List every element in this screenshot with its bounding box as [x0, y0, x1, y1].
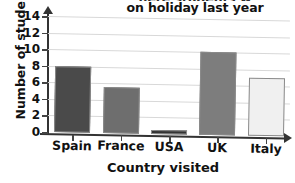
x-axis-label-spain: Spain: [44, 137, 100, 153]
chart-title: here students w on holiday last year: [95, 0, 295, 14]
plot-area: [48, 16, 290, 132]
bar-chart-figure: here students w on holiday last year 024…: [0, 0, 295, 183]
y-axis-tick: [42, 115, 48, 117]
y-axis-tick: [42, 49, 48, 51]
y-axis-tick-label: 0: [20, 126, 40, 138]
y-axis-title: Number of students: [13, 0, 28, 120]
chart-title-line: on holiday last year: [95, 1, 295, 14]
x-axis-label-italy: Italy: [238, 141, 294, 157]
y-axis-tick: [42, 33, 48, 35]
y-axis-tick: [42, 82, 48, 84]
bar-spain: [54, 66, 91, 133]
y-axis-tick: [42, 16, 48, 18]
bar-usa: [151, 130, 187, 135]
bar-series: [48, 16, 292, 136]
bar-italy: [248, 78, 285, 137]
y-axis-tick: [42, 99, 48, 101]
bar-france: [103, 87, 140, 133]
x-axis-title: Country visited: [48, 160, 278, 175]
bar-uk: [199, 52, 237, 135]
y-axis-tick: [42, 132, 48, 134]
y-axis-tick: [42, 66, 48, 68]
y-axis-arrow-icon: [43, 6, 53, 14]
